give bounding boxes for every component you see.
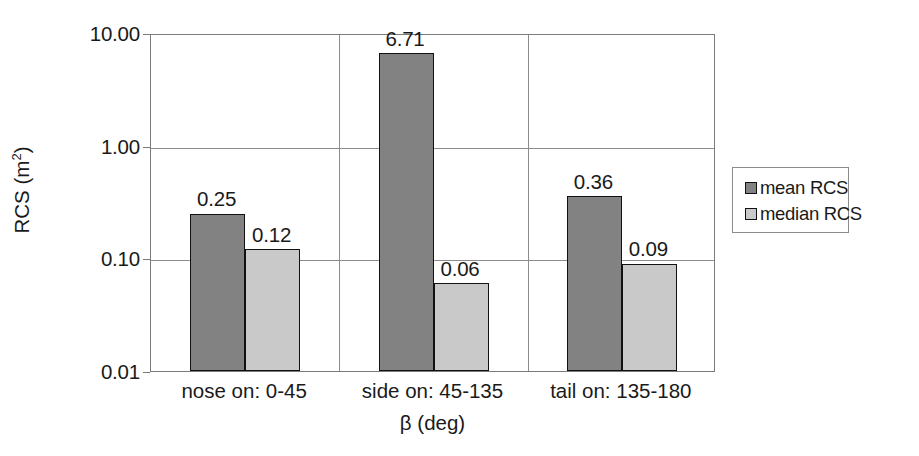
y-axis-tick-label: 10.00 [48, 24, 140, 45]
x-axis-category-label: side on: 45-135 [338, 380, 526, 402]
bar-value-label: 0.12 [234, 225, 309, 246]
x-axis-category-label: tail on: 135-180 [527, 380, 715, 402]
bar-value-label: 0.09 [611, 239, 686, 260]
legend-item-mean-rcs: mean RCS [745, 175, 848, 201]
legend-label-median-rcs: median RCS [760, 205, 862, 224]
x-axis-title: β (deg) [150, 411, 715, 435]
bar-median-rcs [622, 264, 677, 372]
bar-median-rcs [245, 249, 300, 371]
bar-median-rcs [434, 283, 489, 371]
y-axis-tick-mark [143, 147, 150, 148]
y-axis-tick-label: 0.10 [48, 249, 140, 270]
rcs-bar-chart-figure: 10.001.000.100.01 RCS (m2) 0.250.12nose … [0, 0, 919, 456]
y-axis-tick-label: 0.01 [48, 362, 140, 383]
legend-item-median-rcs: median RCS [745, 201, 848, 227]
bar-value-label: 0.25 [179, 189, 254, 210]
y-axis-tick-mark [143, 259, 150, 260]
bar-value-label: 6.71 [368, 29, 443, 50]
gridline-vertical [339, 35, 340, 371]
y-axis-tick-label: 1.00 [48, 137, 140, 158]
legend-swatch-median-rcs-icon [745, 208, 757, 220]
bar-mean-rcs [379, 53, 434, 371]
x-axis-category-label: nose on: 0-45 [150, 380, 338, 402]
y-axis-title-superscript: 2 [9, 153, 24, 160]
bar-value-label: 0.36 [556, 172, 631, 193]
chart-legend: mean RCS median RCS [732, 167, 849, 233]
y-axis-title-base: RCS (m [10, 161, 33, 234]
y-axis-tick-mark [143, 34, 150, 35]
y-axis-tick-mark [143, 372, 150, 373]
bar-mean-rcs [567, 196, 622, 371]
y-axis-title-close: ) [10, 147, 33, 154]
legend-label-mean-rcs: mean RCS [760, 179, 848, 198]
gridline-vertical [528, 35, 529, 371]
y-axis-title: RCS (m2) [10, 90, 34, 290]
legend-swatch-mean-rcs-icon [745, 182, 757, 194]
bar-value-label: 0.06 [423, 259, 498, 280]
